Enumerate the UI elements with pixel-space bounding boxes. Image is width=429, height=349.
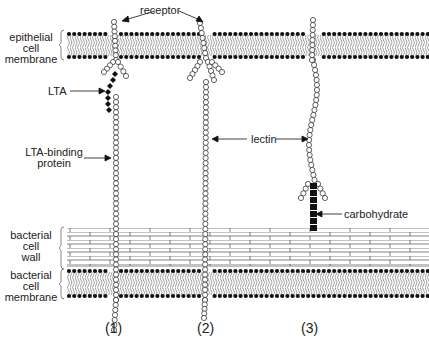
epithelial-membrane — [67, 32, 429, 59]
label-line: membrane — [4, 292, 58, 303]
bacterial-cell-wall — [67, 228, 429, 266]
panel-label-1: (1) — [105, 320, 122, 336]
bacterial-wall-brace — [59, 227, 64, 269]
panel-label-2: (2) — [197, 320, 214, 336]
bacterial-membrane — [67, 269, 429, 298]
lectin-chain-3 — [298, 57, 327, 200]
lta-binding-protein-chain — [111, 94, 118, 332]
label-receptor: receptor — [140, 5, 180, 16]
adhesion-diagram — [0, 0, 429, 349]
lectin-chain-2 — [201, 79, 208, 320]
label-line: wall — [4, 252, 58, 263]
label-carbohydrate: carbohydrate — [344, 209, 408, 220]
epithelial-brace — [59, 30, 64, 60]
label-line: protein — [24, 158, 84, 169]
label-bacterial-wall: bacterial cell wall — [4, 230, 58, 263]
carbohydrate-molecule — [310, 183, 317, 231]
label-lectin: lectin — [251, 134, 277, 145]
label-lta: LTA — [48, 86, 67, 97]
label-epithelial-membrane: epithelial cell membrane — [4, 32, 58, 65]
label-line: membrane — [4, 54, 58, 65]
bacterial-membrane-brace — [59, 269, 64, 299]
panel-label-3: (3) — [301, 320, 318, 336]
label-bacterial-membrane: bacterial cell membrane — [4, 270, 58, 303]
label-lta-binding-protein: LTA-binding protein — [24, 147, 84, 169]
